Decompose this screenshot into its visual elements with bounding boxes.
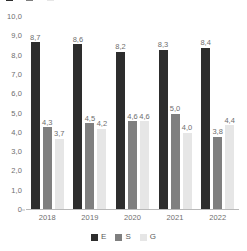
bar-value-label: 4,3 bbox=[42, 119, 52, 127]
y-axis-tick-label: 8,0 bbox=[11, 52, 22, 60]
bar-group: 8,43,84,4 bbox=[196, 17, 239, 210]
bar-g-2021[interactable]: 4,0 bbox=[183, 133, 192, 210]
bar-value-label: 8,2 bbox=[115, 43, 125, 51]
bar-s-2018[interactable]: 4,3 bbox=[43, 127, 52, 210]
legend-label: E bbox=[101, 233, 106, 241]
bar-e-2022[interactable]: 8,4 bbox=[201, 48, 210, 210]
bar-e-2021[interactable]: 8,3 bbox=[159, 50, 168, 210]
bar-s-2020[interactable]: 4,6 bbox=[128, 121, 137, 210]
bar-chart: ESG 10,09,08,07,06,05,04,03,02,01,00 8,7… bbox=[0, 0, 247, 251]
plot-area: 8,74,33,78,64,54,28,24,64,68,35,04,08,43… bbox=[26, 17, 239, 210]
bar-column: 8,7 bbox=[31, 17, 40, 210]
bar-groups: 8,74,33,78,64,54,28,24,64,68,35,04,08,43… bbox=[26, 17, 239, 210]
bar-value-label: 4,0 bbox=[182, 124, 192, 132]
x-axis-category-2022: 2022 bbox=[196, 212, 239, 224]
bar-column: 4,3 bbox=[43, 17, 52, 210]
bar-s-2022[interactable]: 3,8 bbox=[213, 137, 222, 210]
x-axis-category-2018: 2018 bbox=[26, 212, 69, 224]
chart-legend: ESG bbox=[0, 233, 247, 241]
x-axis-line bbox=[26, 209, 239, 210]
bar-g-2019[interactable]: 4,2 bbox=[97, 129, 106, 210]
bar-s-2021[interactable]: 5,0 bbox=[171, 114, 180, 211]
bar-column: 8,3 bbox=[159, 17, 168, 210]
bar-g-2018[interactable]: 3,7 bbox=[55, 139, 64, 210]
clipped-legend-items: ESG bbox=[6, 0, 64, 2]
clipped-legend-swatch-icon bbox=[6, 0, 13, 1]
bar-value-label: 4,5 bbox=[85, 115, 95, 123]
bar-column: 4,6 bbox=[140, 17, 149, 210]
y-axis-tick-mark bbox=[22, 210, 25, 211]
y-axis-tick-label: 6,0 bbox=[11, 90, 22, 98]
bar-column: 4,4 bbox=[225, 17, 234, 210]
bar-column: 4,5 bbox=[85, 17, 94, 210]
y-axis-tick-label: 2,0 bbox=[11, 168, 22, 176]
clipped-legend-swatch-icon bbox=[47, 0, 54, 1]
bar-value-label: 5,0 bbox=[170, 105, 180, 113]
bar-value-label: 4,6 bbox=[127, 113, 137, 121]
x-axis-category-2021: 2021 bbox=[154, 212, 197, 224]
bar-column: 3,7 bbox=[55, 17, 64, 210]
legend-item-s[interactable]: S bbox=[115, 233, 130, 241]
y-axis-tick-label: 7,0 bbox=[11, 71, 22, 79]
legend-swatch-icon bbox=[140, 234, 147, 241]
bar-value-label: 4,2 bbox=[97, 120, 107, 128]
bar-value-label: 8,3 bbox=[158, 41, 168, 49]
bar-column: 4,0 bbox=[183, 17, 192, 210]
clipped-legend-swatch-icon bbox=[26, 0, 33, 1]
bar-column: 5,0 bbox=[171, 17, 180, 210]
bar-value-label: 8,4 bbox=[200, 39, 210, 47]
legend-swatch-icon bbox=[115, 234, 122, 241]
bar-group: 8,64,54,2 bbox=[69, 17, 112, 210]
legend-label: S bbox=[125, 233, 130, 241]
y-axis-tick-label: 9,0 bbox=[11, 33, 22, 41]
clipped-legend-label: S bbox=[37, 0, 42, 2]
bar-s-2019[interactable]: 4,5 bbox=[85, 123, 94, 210]
bar-value-label: 3,8 bbox=[212, 128, 222, 136]
y-axis-labels: 10,09,08,07,06,05,04,03,02,01,00 bbox=[0, 17, 24, 210]
clipped-legend-label: E bbox=[17, 0, 22, 2]
bar-value-label: 8,6 bbox=[73, 36, 83, 44]
x-axis-labels: 20182019202020212022 bbox=[26, 212, 239, 224]
bar-column: 3,8 bbox=[213, 17, 222, 210]
bar-value-label: 8,7 bbox=[30, 34, 40, 42]
bar-column: 8,4 bbox=[201, 17, 210, 210]
bar-g-2020[interactable]: 4,6 bbox=[140, 121, 149, 210]
y-axis-tick-label: 1,0 bbox=[11, 187, 22, 195]
legend-item-e[interactable]: E bbox=[91, 233, 106, 241]
bar-value-label: 4,4 bbox=[224, 117, 234, 125]
bar-column: 4,2 bbox=[97, 17, 106, 210]
legend-item-g[interactable]: G bbox=[140, 233, 156, 241]
y-axis-tick-label: 10,0 bbox=[7, 13, 22, 21]
x-axis-category-2020: 2020 bbox=[111, 212, 154, 224]
y-axis-tick-label: 4,0 bbox=[11, 129, 22, 137]
y-axis-tick-label: 3,0 bbox=[11, 148, 22, 156]
clipped-legend-fragment: ESG bbox=[0, 0, 247, 5]
bar-e-2019[interactable]: 8,6 bbox=[73, 44, 82, 210]
bar-e-2018[interactable]: 8,7 bbox=[31, 42, 40, 210]
bar-column: 4,6 bbox=[128, 17, 137, 210]
bar-value-label: 4,6 bbox=[139, 113, 149, 121]
bar-column: 8,2 bbox=[116, 17, 125, 210]
bar-group: 8,35,04,0 bbox=[154, 17, 197, 210]
bar-e-2020[interactable]: 8,2 bbox=[116, 52, 125, 210]
bar-g-2022[interactable]: 4,4 bbox=[225, 125, 234, 210]
bar-group: 8,74,33,7 bbox=[26, 17, 69, 210]
legend-swatch-icon bbox=[91, 234, 98, 241]
bar-value-label: 3,7 bbox=[54, 130, 64, 138]
bar-column: 8,6 bbox=[73, 17, 82, 210]
x-axis-category-2019: 2019 bbox=[69, 212, 112, 224]
y-axis-tick-label: 5,0 bbox=[11, 110, 22, 118]
bar-group: 8,24,64,6 bbox=[111, 17, 154, 210]
legend-label: G bbox=[150, 233, 156, 241]
clipped-legend-label: G bbox=[58, 0, 64, 2]
